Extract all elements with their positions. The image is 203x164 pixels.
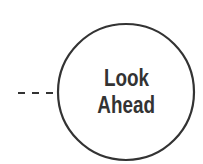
label-line-1: Look (103, 65, 148, 92)
label-line-2: Ahead (97, 92, 155, 119)
look-ahead-node-label: Look Ahead (58, 23, 194, 161)
